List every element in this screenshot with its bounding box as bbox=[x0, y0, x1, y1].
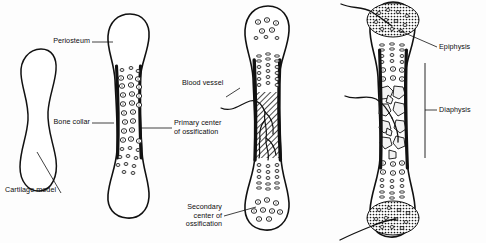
blood-vessel-leader bbox=[226, 88, 240, 97]
bone-collar-left bbox=[117, 66, 119, 158]
stage-2-bone-collar bbox=[92, 14, 172, 218]
label-periosteum: Periosteum bbox=[28, 37, 90, 46]
cortical-bone-left-stage4 bbox=[380, 50, 381, 168]
label-epiphysis: Epiphysis bbox=[439, 43, 470, 52]
ossified-epiphysis-lower bbox=[367, 201, 419, 235]
label-bone-collar: Bone collar bbox=[28, 118, 90, 127]
stage-2-outline bbox=[108, 14, 149, 218]
label-blood-vessel: Blood vessel bbox=[182, 79, 223, 88]
cortical-bone-right bbox=[279, 60, 280, 160]
label-diaphysis: Diaphysis bbox=[439, 106, 471, 115]
label-primary-center-of-ossification: Primary center of ossification bbox=[174, 119, 240, 136]
stage-4-epiphysis-diaphysis bbox=[340, 2, 437, 240]
cortical-bone-right-stage4 bbox=[406, 50, 408, 168]
ossified-epiphysis-upper bbox=[367, 3, 419, 37]
label-secondary-center-of-ossification: Secondary center of ossification bbox=[178, 203, 222, 229]
label-cartilage-model: Cartilage model bbox=[5, 186, 56, 195]
cortical-bone-left bbox=[254, 60, 255, 160]
